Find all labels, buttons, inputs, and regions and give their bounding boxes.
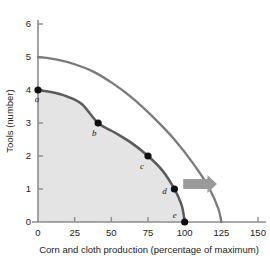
data-point-label-b: b [92, 128, 97, 138]
growth-arrow-icon [183, 175, 217, 193]
x-tick-label: 50 [106, 227, 117, 238]
data-point-label-e: e [173, 210, 177, 220]
y-tick-label: 2 [26, 150, 31, 161]
y-axis-title: Tools (number) [4, 89, 15, 152]
x-tick-label: 100 [177, 227, 193, 238]
x-tick-label: 75 [143, 227, 154, 238]
y-tick-label: 3 [26, 117, 31, 128]
data-point-label-c: c [140, 161, 144, 171]
attainable-production-area [38, 90, 185, 222]
x-tick-label: 150 [250, 227, 266, 238]
data-point-marker-a [34, 86, 41, 93]
y-tick-label: 4 [26, 84, 31, 95]
growth-arrow-shape [183, 175, 217, 193]
y-tick-label: 1 [26, 183, 31, 194]
y-tick-label: 6 [26, 18, 31, 29]
y-tick-label: 0 [26, 216, 31, 227]
data-point-label-a: a [35, 94, 40, 104]
x-tick-label: 25 [69, 227, 80, 238]
data-point-marker-d [171, 185, 178, 192]
ppf-chart: 0123456 0255075100125150 abcde Corn and … [0, 0, 270, 261]
x-axis-tick-labels: 0255075100125150 [35, 227, 266, 238]
data-point-label-d: d [162, 186, 167, 196]
data-point-marker-b [95, 119, 102, 126]
x-tick-label: 125 [213, 227, 229, 238]
data-point-marker-c [144, 152, 151, 159]
data-point-marker-e [181, 218, 188, 225]
x-tick-label: 0 [35, 227, 40, 238]
ppf-plot-svg: 0123456 0255075100125150 abcde Corn and … [0, 0, 270, 261]
y-tick-label: 5 [26, 51, 31, 62]
x-axis-title: Corn and cloth production (percentage of… [39, 244, 259, 255]
y-axis-tick-labels: 0123456 [26, 18, 31, 227]
